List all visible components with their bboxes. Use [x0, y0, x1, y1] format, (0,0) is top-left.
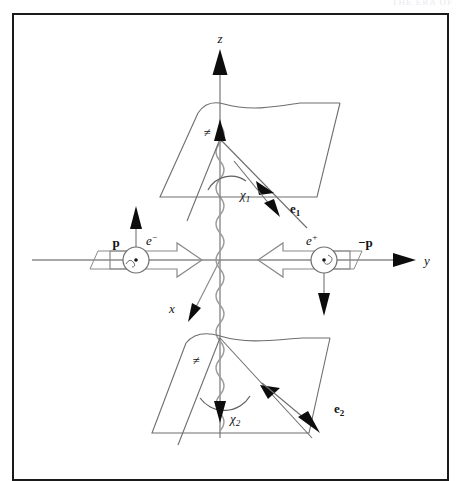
electron-momentum-label: p	[112, 235, 119, 250]
running-head-text: THE ERA OF	[392, 0, 453, 7]
positron-momentum-label: −p	[358, 235, 373, 250]
y-axis-label: y	[422, 253, 430, 268]
chi-1-angle-arc: χ1	[208, 176, 250, 204]
electron-center-dot	[134, 258, 138, 262]
e1-inner-arrow	[256, 181, 274, 195]
positron-label: e+	[306, 232, 318, 248]
x-axis-label: x	[168, 301, 175, 316]
z-axis-arrowhead	[213, 49, 228, 75]
electron-label: e−	[146, 232, 158, 248]
lower-plane-hatch-icon: ≠	[192, 353, 199, 368]
upper-scattering-plane: ≠	[160, 103, 340, 197]
positron-center-dot	[322, 258, 326, 262]
figure-canvas: z y x ≠	[12, 13, 449, 481]
e2-label: e2	[334, 401, 345, 418]
upper-plane-rays	[187, 139, 307, 228]
electron-spin-up-arrowhead	[130, 206, 142, 229]
e2-inner-arrow	[260, 385, 280, 399]
upper-plane-up-arrow	[214, 119, 226, 141]
chi-1-label: χ1	[238, 187, 250, 204]
upper-plane-hatch-icon: ≠	[203, 125, 210, 140]
positron-spin-down-arrowhead	[318, 293, 330, 316]
positron-group: e+ −p	[258, 232, 373, 316]
z-axis-label: z	[216, 31, 222, 46]
electron-group: p e−	[90, 206, 202, 277]
y-axis-arrowhead	[393, 253, 416, 267]
e2-arrowhead	[298, 411, 320, 433]
e1-label: e1	[290, 201, 301, 218]
chi-2-angle-arc: χ2	[200, 396, 250, 428]
e1-arrowhead	[264, 199, 280, 217]
running-head: THE ERA OF	[0, 0, 463, 9]
chi-2-label: χ2	[228, 411, 241, 428]
x-axis-arrowhead	[188, 303, 201, 322]
